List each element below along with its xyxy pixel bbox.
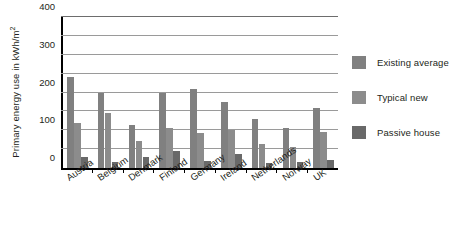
bar-group — [67, 17, 88, 168]
legend-label: Existing average — [377, 57, 449, 68]
x-tick — [153, 168, 154, 173]
x-tick — [92, 168, 93, 173]
legend-label: Passive house — [377, 127, 440, 138]
bar — [327, 160, 334, 168]
bar — [74, 123, 81, 168]
bar-group — [221, 17, 242, 168]
bar — [105, 113, 112, 168]
y-axis-title-superscript: 2 — [9, 26, 16, 30]
bar-group — [98, 17, 119, 168]
legend-item: Existing average — [352, 56, 449, 69]
y-tick-label-200: 200 — [39, 76, 55, 87]
bar-group — [159, 17, 180, 168]
x-tick — [307, 168, 308, 173]
y-tick-label-400: 400 — [39, 1, 55, 12]
bar-group — [129, 17, 150, 168]
plot-area: 0100200300400 — [61, 17, 338, 168]
chart-figure: Primary energy use in kWh/m2 01002003004… — [0, 0, 466, 239]
bar — [252, 119, 259, 168]
bar-group — [313, 17, 334, 168]
bar — [98, 93, 105, 168]
x-tick — [246, 168, 247, 173]
x-tick — [184, 168, 185, 173]
bar — [320, 132, 327, 168]
legend-label: Typical new — [377, 92, 428, 103]
y-tick-label-300: 300 — [39, 38, 55, 49]
y-axis-title-text: Primary energy use in kWh/m — [10, 30, 21, 157]
legend-swatch-icon — [352, 91, 366, 104]
x-tick — [123, 168, 124, 173]
bar — [67, 77, 74, 168]
y-tick-label-100: 100 — [39, 114, 55, 125]
legend-item: Typical new — [352, 91, 449, 104]
legend-item: Passive house — [352, 126, 449, 139]
chart-legend: Existing averageTypical newPassive house — [352, 56, 449, 139]
bar-group — [190, 17, 211, 168]
y-axis-title: Primary energy use in kWh/m2 — [7, 12, 21, 172]
legend-swatch-icon — [352, 126, 366, 139]
bar — [313, 108, 320, 168]
y-tick-label-0: 0 — [50, 152, 55, 163]
bar-group — [252, 17, 273, 168]
x-tick — [215, 168, 216, 173]
x-tick — [276, 168, 277, 173]
y-axis-line — [61, 17, 63, 168]
bar — [190, 89, 197, 168]
legend-swatch-icon — [352, 56, 366, 69]
